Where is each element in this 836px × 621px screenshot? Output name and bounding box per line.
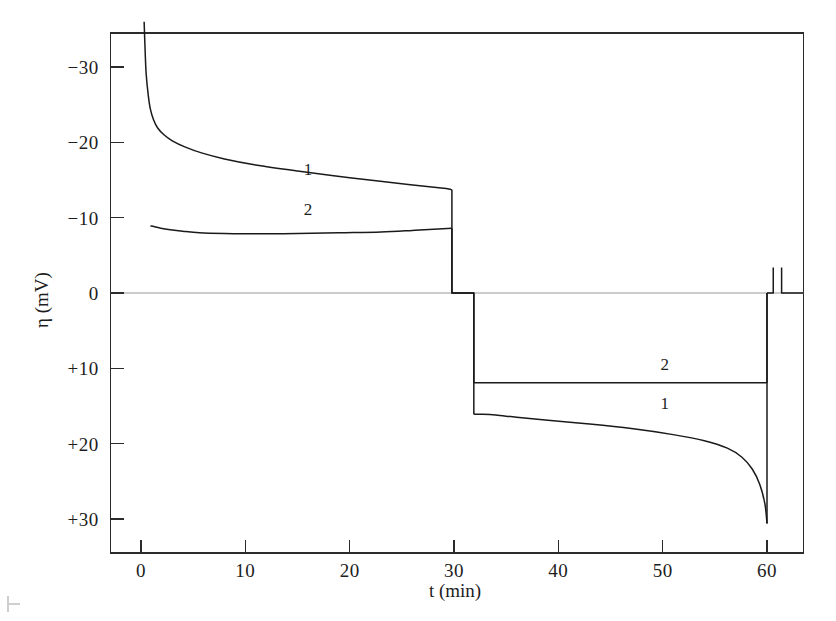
- curve-annotation-2-2: 2: [661, 355, 670, 374]
- curve-1-transition-step: [452, 190, 474, 414]
- y-tick-label: −20: [68, 132, 99, 153]
- y-axis-title: η (mV): [31, 272, 53, 328]
- curve-annotation-1-3: 1: [661, 394, 670, 413]
- x-axis-tick-labels: 0102030405060: [136, 560, 777, 581]
- y-tick-label: +30: [68, 509, 99, 530]
- data-series-group: [144, 22, 803, 524]
- y-axis-ticks: [111, 67, 124, 519]
- x-tick-label: 50: [653, 560, 673, 581]
- curve-1-anodic: [474, 414, 767, 523]
- curve-annotation-2-1: 2: [304, 200, 313, 219]
- y-tick-label: −30: [68, 57, 99, 78]
- x-tick-label: 0: [136, 560, 146, 581]
- post-pulse-baseline-notch: [767, 267, 804, 293]
- y-tick-label: +20: [68, 434, 99, 455]
- chart-svg: −30−20−100+10+20+30 0102030405060 1221 η…: [0, 0, 836, 621]
- x-axis-ticks: [141, 540, 767, 553]
- x-tick-label: 60: [757, 560, 777, 581]
- curve-labels-group: 1221: [304, 160, 669, 413]
- x-tick-label: 20: [340, 560, 360, 581]
- curve-1-cathodic: [144, 22, 452, 190]
- x-tick-label: 30: [444, 560, 464, 581]
- x-tick-label: 10: [235, 560, 255, 581]
- y-tick-label: 0: [89, 283, 99, 304]
- y-axis-tick-labels: −30−20−100+10+20+30: [68, 57, 99, 530]
- chart-figure: −30−20−100+10+20+30 0102030405060 1221 η…: [0, 0, 836, 621]
- x-axis-title: t (min): [429, 580, 481, 602]
- curve-2-cathodic: [150, 226, 452, 234]
- curve-annotation-1-0: 1: [304, 160, 313, 179]
- curve-2-transition-step: [452, 228, 474, 382]
- corner-registration-mark: [8, 596, 20, 612]
- y-tick-label: −10: [68, 208, 99, 229]
- x-tick-label: 40: [548, 560, 568, 581]
- y-tick-label: +10: [68, 358, 99, 379]
